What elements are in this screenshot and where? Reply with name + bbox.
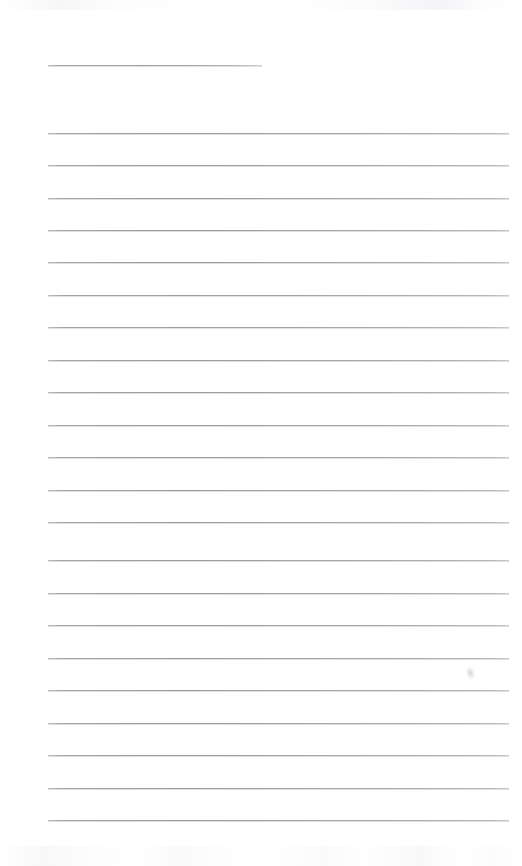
ruled-line (48, 723, 509, 724)
ruled-line (48, 593, 509, 594)
ruled-line (48, 425, 509, 426)
ruled-line (48, 165, 509, 166)
ruled-line (48, 755, 509, 756)
ruled-line (48, 327, 509, 328)
ruled-line (48, 625, 509, 626)
header-rule (48, 65, 262, 66)
ruled-line (48, 788, 509, 789)
ruled-line (48, 490, 509, 491)
pencil-smudge-mark (464, 665, 477, 681)
ruled-line (48, 522, 509, 523)
scan-artifact-bottom (0, 846, 522, 866)
scanned-page (0, 0, 522, 866)
ruled-line (48, 230, 509, 231)
ruled-line (48, 658, 509, 659)
ruled-line (48, 392, 509, 393)
scan-artifact-top (0, 0, 522, 10)
ruled-line (48, 198, 509, 199)
ruled-line (48, 690, 509, 691)
ruled-line (48, 360, 509, 361)
ruled-line (48, 457, 509, 458)
ruled-line (48, 133, 509, 134)
ruled-line (48, 820, 509, 821)
ruled-line (48, 560, 509, 561)
ruled-line (48, 262, 509, 263)
ruled-line (48, 295, 509, 296)
